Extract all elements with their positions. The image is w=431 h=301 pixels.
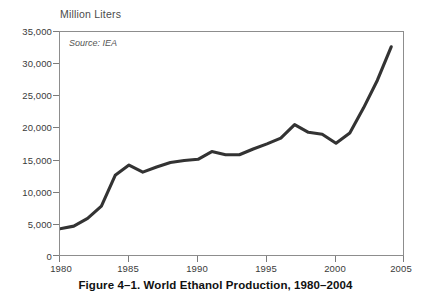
- data-series-line: [60, 47, 391, 229]
- x-axis-labels: 1980 1985 1990 1995 2000 2005: [59, 263, 404, 277]
- y-axis-title: Million Liters: [60, 8, 121, 20]
- x-tick-label: 1985: [117, 263, 139, 274]
- y-axis-ticks: [0, 31, 59, 256]
- x-tick-mark: [59, 256, 60, 262]
- x-tick-label: 1995: [255, 263, 277, 274]
- source-annotation: Source: IEA: [69, 38, 117, 48]
- x-tick-mark: [128, 256, 129, 262]
- plot-area: Source: IEA: [59, 31, 404, 256]
- x-tick-label: 2000: [324, 263, 346, 274]
- x-tick-mark: [266, 256, 267, 262]
- x-tick-mark: [403, 256, 404, 262]
- x-tick-label: 2005: [390, 263, 412, 274]
- x-tick-label: 1990: [186, 263, 208, 274]
- line-chart-svg: [60, 32, 405, 257]
- x-tick-label: 1980: [50, 263, 72, 274]
- figure-caption: Figure 4–1. World Ethanol Production, 19…: [0, 279, 431, 291]
- figure-container: Million Liters 35,000 30,000 25,000 20,0…: [0, 0, 431, 301]
- x-tick-mark: [335, 256, 336, 262]
- x-tick-mark: [197, 256, 198, 262]
